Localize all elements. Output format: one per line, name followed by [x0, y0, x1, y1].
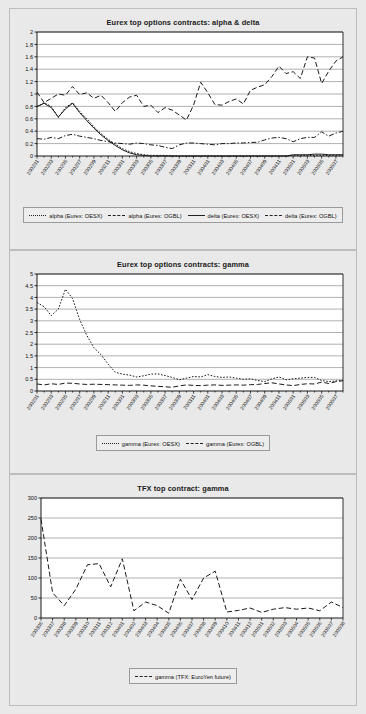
x-axis-tick-label: 200301: [111, 158, 126, 176]
plot-area-1: 00.20.40.60.811.21.41.61.822002012002032…: [10, 27, 356, 207]
legend-item: delta (Eurex: OGBL): [265, 212, 337, 220]
x-axis-tick-label: 200209: [82, 393, 97, 411]
y-axis-tick-label: 300: [28, 495, 37, 501]
x-axis-tick-label: 200303: [125, 158, 140, 176]
y-axis-tick-label: 1: [30, 365, 33, 371]
y-axis-tick-label: 250: [28, 515, 37, 521]
x-axis-tick-label: 200305: [139, 158, 154, 176]
chart-title-2: Eurex top options contracts: gamma: [10, 251, 356, 269]
chart-legend-1: alpha (Eurex: OESX)alpha (Eurex: OGBL)de…: [10, 207, 356, 223]
chart-panel-alpha-delta: Eurex top options contracts: alpha & del…: [9, 8, 357, 250]
y-axis-tick-label: 1: [30, 91, 33, 97]
legend-item: delta (Eurex: OESX): [188, 212, 260, 220]
y-axis-tick-label: 0.8: [25, 104, 33, 110]
x-axis-tick-label: 200309: [167, 393, 182, 411]
x-axis-tick-label: 200309: [167, 158, 182, 176]
chart-panel-eurex-gamma: Eurex top options contracts: gamma 00.51…: [9, 250, 357, 474]
legend-swatch-dashed-icon: [108, 215, 125, 216]
x-axis-tick-label: 200307: [153, 158, 168, 176]
legend-item: alpha (Eurex: OGBL): [108, 212, 181, 220]
x-axis-tick-label: 200201: [25, 393, 40, 411]
x-axis-tick-label: 200405: [224, 158, 239, 176]
chart-svg-2: 00.511.522.533.544.552002012002032002052…: [10, 269, 356, 435]
y-axis-tick-label: 1.4: [25, 66, 33, 72]
y-axis-tick-label: 1.8: [25, 42, 33, 48]
legend-label: alpha (Eurex: OGBL): [128, 212, 181, 220]
x-axis-tick-label: 200405: [224, 393, 239, 411]
x-axis-tick-label: 200203: [39, 158, 54, 176]
x-axis-tick-label: 200207: [68, 158, 83, 176]
x-axis-tick-label: 200307: [153, 393, 168, 411]
y-axis-tick-label: 0.4: [25, 128, 33, 134]
x-axis-tick-label: 200409: [253, 393, 268, 411]
plot-area-2: 00.511.522.533.544.552002012002032002052…: [10, 269, 356, 435]
y-axis-tick-label: 3: [30, 318, 33, 324]
y-axis-tick-label: 1.5: [25, 353, 33, 359]
y-axis-tick-label: 2: [30, 29, 33, 35]
figure-page: Eurex top options contracts: alpha & del…: [0, 0, 366, 714]
y-axis-tick-label: 4.5: [25, 283, 33, 289]
x-axis-tick-label: 200501: [281, 158, 296, 176]
x-axis-tick-label: 200407: [239, 158, 254, 176]
chart-panel-tfx-gamma: TFX top contract: gamma 0501001502002503…: [9, 474, 357, 706]
y-axis-tick-label: 150: [28, 555, 37, 561]
legend-label: gamma (TFX: EuroYen future): [155, 673, 231, 681]
legend-label: delta (Eurex: OGBL): [285, 212, 337, 220]
x-axis-tick-label: 200205: [54, 158, 69, 176]
y-axis-tick-label: 4: [30, 295, 33, 301]
x-axis-tick-label: 200411: [267, 393, 282, 410]
legend-item: alpha (Eurex: OESX): [29, 212, 102, 220]
y-axis-tick-label: 50: [31, 595, 37, 601]
x-axis-tick-label: 200503: [296, 393, 311, 411]
legend-item: gamma (Eurex: OESX): [102, 440, 180, 448]
chart-svg-1: 00.20.40.60.811.21.41.61.822002012002032…: [10, 27, 356, 207]
y-axis-tick-label: 2: [30, 341, 33, 347]
legend-label: delta (Eurex: OESX): [208, 212, 260, 220]
legend-swatch-solid-icon: [188, 215, 205, 216]
x-axis-tick-label: 200311: [182, 158, 197, 175]
x-axis-tick-label: 200311: [182, 393, 197, 410]
x-axis-tick-label: 200211: [97, 393, 112, 410]
x-axis-tick-label: 200211: [97, 158, 112, 175]
y-axis-tick-label: 0: [30, 388, 33, 394]
legend-swatch-dashed-icon: [186, 443, 203, 444]
x-axis-tick-label: 200505: [310, 158, 325, 176]
y-axis-tick-label: 1.6: [25, 54, 33, 60]
y-axis-tick-label: 0.2: [25, 141, 33, 147]
x-axis-tick-label: 200207: [68, 393, 83, 411]
x-axis-tick-label: 200407: [239, 393, 254, 411]
chart-svg-3: 0501001502002503002003062003072003082003…: [10, 493, 356, 668]
x-axis-tick-label: 200503: [296, 158, 311, 176]
legend-label: alpha (Eurex: OESX): [49, 212, 102, 220]
y-axis-tick-label: 0: [30, 153, 33, 159]
x-axis-tick-label: 200505: [310, 393, 325, 411]
legend-label: gamma (Eurex: OESX): [122, 440, 180, 448]
x-axis-tick-label: 200411: [267, 158, 282, 175]
x-axis-tick-label: 200403: [210, 393, 225, 411]
legend-item: gamma (TFX: EuroYen future): [135, 673, 231, 681]
x-axis-tick-label: 200507: [324, 158, 339, 176]
x-axis-tick-label: 200501: [281, 393, 296, 411]
chart-legend-2: gamma (Eurex: OESX)gamma (Eurex: OGBL): [10, 435, 356, 451]
plot-area-3: 0501001502002503002003062003072003082003…: [10, 493, 356, 668]
x-axis-tick-label: 200203: [39, 393, 54, 411]
chart-title-1: Eurex top options contracts: alpha & del…: [10, 9, 356, 27]
y-axis-tick-label: 0: [34, 615, 37, 621]
legend-swatch-dashed-icon: [135, 676, 152, 677]
legend-box-3: gamma (TFX: EuroYen future): [129, 668, 237, 684]
x-axis-tick-label: 200403: [210, 158, 225, 176]
legend-item: gamma (Eurex: OGBL): [186, 440, 264, 448]
x-axis-tick-label: 200209: [82, 158, 97, 176]
y-axis-tick-label: 0.6: [25, 116, 33, 122]
y-axis-tick-label: 5: [30, 271, 33, 277]
legend-swatch-dotted-icon: [29, 215, 46, 216]
x-axis-tick-label: 200409: [253, 158, 268, 176]
legend-label: gamma (Eurex: OGBL): [206, 440, 264, 448]
chart-legend-3: gamma (TFX: EuroYen future): [10, 668, 356, 684]
y-axis-tick-label: 0.5: [25, 376, 33, 382]
x-axis-tick-label: 200201: [25, 158, 40, 176]
y-axis-tick-label: 2.5: [25, 330, 33, 336]
y-axis-tick-label: 200: [28, 535, 37, 541]
x-axis-tick-label: 200508: [331, 620, 346, 638]
legend-swatch-dashdot-icon: [265, 215, 282, 216]
